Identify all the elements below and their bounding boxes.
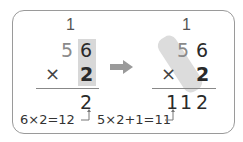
note-left: 6×2=12 — [20, 113, 75, 126]
multiply-sign-right: × — [161, 65, 176, 83]
carry-arrow-icon — [81, 108, 93, 122]
top-digit-tens-left: 5 — [61, 41, 73, 60]
multiplier-right: 2 — [196, 65, 209, 84]
result-line-right — [152, 88, 216, 89]
note-right: 5×2+1=11 — [97, 113, 171, 126]
carry-digit-right: 1 — [182, 17, 191, 33]
multiplier-left: 2 — [80, 65, 93, 84]
result-line-left — [36, 88, 99, 89]
multiply-sign-left: × — [45, 65, 60, 83]
top-digit-ones-right: 6 — [196, 41, 208, 60]
result-digit-ones-right: 2 — [196, 93, 208, 112]
carry-arrow-icon — [165, 108, 177, 122]
top-digit-ones-left: 6 — [80, 41, 92, 60]
right-arrow-icon — [110, 60, 134, 74]
result-digit-tens-right: 1 — [180, 93, 192, 112]
top-digit-tens-right: 5 — [177, 41, 189, 60]
carry-digit-left: 1 — [66, 17, 75, 33]
